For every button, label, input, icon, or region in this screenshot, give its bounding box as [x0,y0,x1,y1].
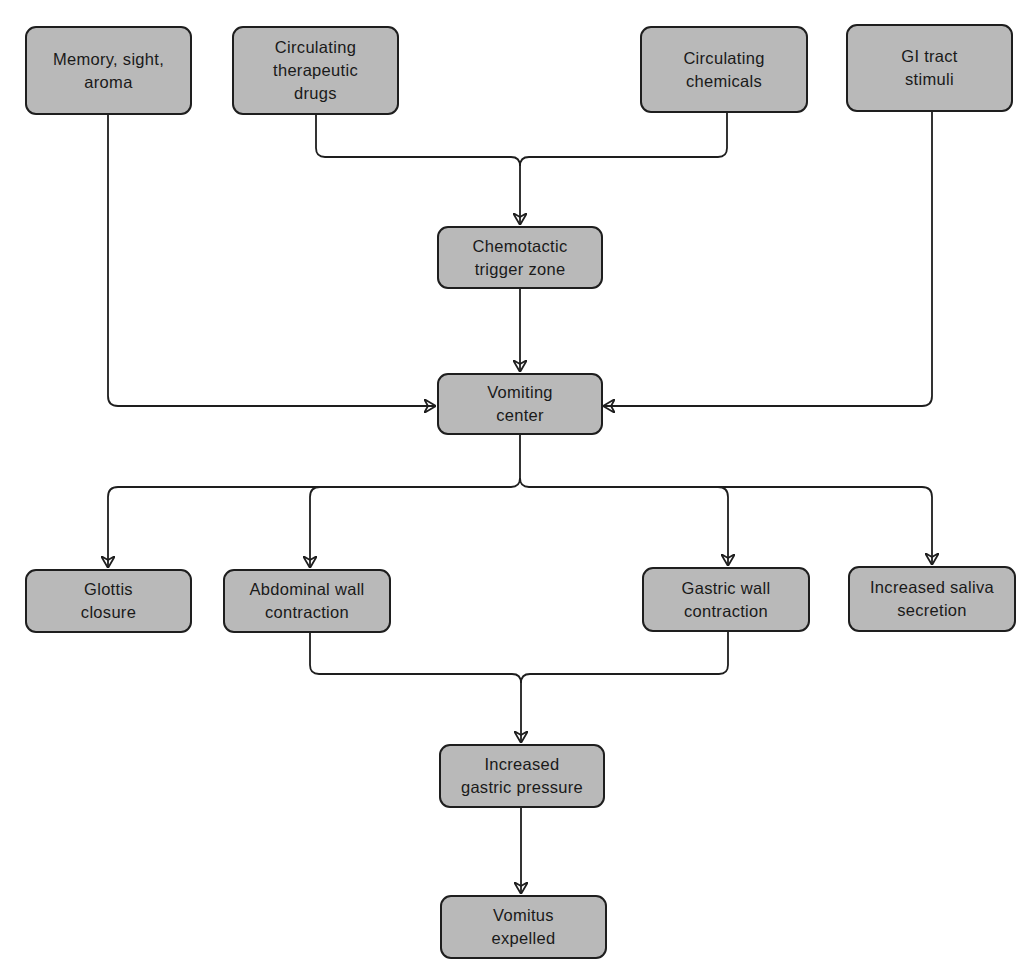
node-increased-gastric-pressure: Increased gastric pressure [439,744,605,808]
node-circulating-therapeutic-drugs: Circulating therapeutic drugs [232,26,399,115]
node-chemotactic-trigger-zone: Chemotactic trigger zone [437,226,603,289]
node-circulating-chemicals: Circulating chemicals [640,26,808,113]
node-vomitus-expelled: Vomitus expelled [440,895,607,959]
node-label: Gastric wall contraction [682,577,771,623]
arrow-to-abdominal [310,487,320,567]
arrow-memory-to-vomiting-center [108,115,435,406]
node-vomiting-center: Vomiting center [437,373,603,435]
node-gi-tract-stimuli: GI tract stimuli [846,24,1013,112]
node-label: Vomiting center [487,381,553,427]
node-increased-saliva-secretion: Increased saliva secretion [848,566,1016,632]
arrow-to-gastric-wall [718,487,728,565]
node-label: Vomitus expelled [492,904,556,950]
node-gastric-wall-contraction: Gastric wall contraction [642,567,810,632]
node-label: Chemotactic trigger zone [472,235,567,281]
connector-lines [0,0,1035,974]
arrow-to-saliva [529,487,932,564]
node-glottis-closure: Glottis closure [25,569,192,633]
node-label: Memory, sight, aroma [53,48,164,94]
node-label: Circulating therapeutic drugs [273,36,358,105]
connector-chemicals-to-ctz [520,113,727,166]
node-label: GI tract stimuli [901,45,958,91]
node-label: Glottis closure [81,578,136,624]
connector-drugs-to-ctz [316,115,520,166]
vomiting-pathway-diagram: Memory, sight, aroma Circulating therape… [0,0,1035,974]
node-label: Abdominal wall contraction [249,578,364,624]
node-label: Increased saliva secretion [870,576,994,622]
connector-vomiting-center-stem [511,435,520,487]
connector-abdominal-to-pressure [310,633,521,683]
node-label: Circulating chemicals [683,47,764,93]
node-label: Increased gastric pressure [461,753,583,799]
connector-vomiting-center-stem-right [520,478,529,487]
connector-gastric-wall-to-pressure [521,632,728,683]
node-abdominal-wall-contraction: Abdominal wall contraction [223,569,391,633]
node-memory-sight-aroma: Memory, sight, aroma [25,26,192,115]
